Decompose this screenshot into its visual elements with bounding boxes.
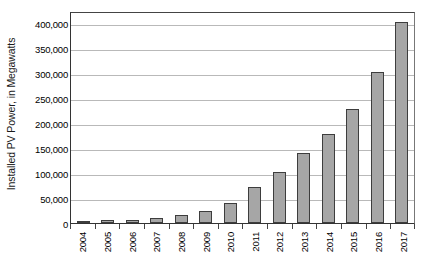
x-axis-tick-mark bbox=[119, 224, 120, 229]
bar bbox=[199, 211, 212, 223]
x-axis-tick-label: 2010 bbox=[218, 230, 243, 275]
bar-chart: Installed PV Power, in Megawatts 050,000… bbox=[0, 0, 425, 275]
y-axis-title-text: Installed PV Power, in Megawatts bbox=[5, 38, 17, 191]
bar-slot bbox=[390, 13, 415, 223]
bar bbox=[322, 134, 335, 223]
x-axis-tick-label: 2014 bbox=[316, 230, 341, 275]
x-axis-tick-mark bbox=[341, 224, 342, 229]
x-axis-tick-labels: 2004200520062007200820092010201120122013… bbox=[70, 230, 415, 275]
x-axis-tick-label-text: 2011 bbox=[249, 232, 260, 252]
x-axis-tick-label-text: 2008 bbox=[175, 232, 186, 252]
x-axis-tick-mark bbox=[390, 224, 391, 229]
x-axis-tick-mark bbox=[292, 224, 293, 229]
bar-slot bbox=[169, 13, 194, 223]
x-axis-tick-mark bbox=[218, 224, 219, 229]
bar bbox=[248, 187, 261, 223]
bar-slot bbox=[292, 13, 317, 223]
x-axis-tick-label-text: 2012 bbox=[274, 232, 285, 252]
bar-slot bbox=[218, 13, 243, 223]
x-axis-tick-label-text: 2005 bbox=[101, 232, 112, 252]
x-axis-tick-label: 2012 bbox=[267, 230, 292, 275]
x-axis-tick-label-text: 2007 bbox=[151, 232, 162, 252]
x-axis-tick-mark bbox=[242, 224, 243, 229]
y-axis-tick-label: 250,000 bbox=[35, 94, 68, 105]
y-axis-tick-label: 100,000 bbox=[35, 169, 68, 180]
x-axis-tick-label: 2011 bbox=[242, 230, 267, 275]
y-axis-tick-label: 350,000 bbox=[35, 44, 68, 55]
x-axis-tick-label: 2015 bbox=[341, 230, 366, 275]
x-axis-tick-label-text: 2016 bbox=[373, 232, 384, 252]
x-axis-tick-label-text: 2004 bbox=[77, 232, 88, 252]
x-axis-tick-end bbox=[414, 224, 415, 229]
x-axis-tick-label-text: 2017 bbox=[397, 232, 408, 252]
bar bbox=[101, 220, 114, 223]
y-axis-tick-label: 200,000 bbox=[35, 119, 68, 130]
x-axis-tick-label-text: 2009 bbox=[200, 232, 211, 252]
bar-slot bbox=[96, 13, 121, 223]
bar-slot bbox=[316, 13, 341, 223]
bar-slot bbox=[267, 13, 292, 223]
plot-area bbox=[70, 12, 415, 224]
bar bbox=[175, 215, 188, 223]
x-axis-tick-label-text: 2006 bbox=[126, 232, 137, 252]
bar bbox=[150, 218, 163, 223]
y-axis-tick-labels: 050,000100,000150,000200,000250,000300,0… bbox=[18, 0, 68, 275]
bar bbox=[395, 22, 408, 223]
x-axis-tick-mark bbox=[267, 224, 268, 229]
y-axis-tick-label: 50,000 bbox=[40, 194, 68, 205]
x-axis-tick-label: 2006 bbox=[119, 230, 144, 275]
x-axis-tick-label: 2017 bbox=[390, 230, 415, 275]
x-axis-tick-label: 2016 bbox=[366, 230, 391, 275]
bar-slot bbox=[365, 13, 390, 223]
bar-slot bbox=[194, 13, 219, 223]
bar bbox=[77, 221, 90, 223]
bar bbox=[346, 109, 359, 223]
x-axis-tick-mark bbox=[70, 224, 71, 229]
x-axis-tick-label: 2009 bbox=[193, 230, 218, 275]
x-axis-tick-mark bbox=[95, 224, 96, 229]
bar bbox=[297, 153, 310, 223]
y-axis-tick-label: 300,000 bbox=[35, 69, 68, 80]
bar-slot bbox=[120, 13, 145, 223]
y-axis-tick-label: 0 bbox=[63, 219, 68, 230]
x-axis-tick-mark bbox=[316, 224, 317, 229]
x-axis-tick-label-text: 2014 bbox=[323, 232, 334, 252]
x-axis-tick-label: 2004 bbox=[70, 230, 95, 275]
bar bbox=[273, 172, 286, 223]
x-axis-tick-label-text: 2010 bbox=[225, 232, 236, 252]
bar bbox=[371, 72, 384, 223]
bar bbox=[126, 220, 139, 223]
y-axis-tick-label: 150,000 bbox=[35, 144, 68, 155]
x-axis-tick-mark bbox=[144, 224, 145, 229]
x-axis-tick-label-text: 2013 bbox=[299, 232, 310, 252]
x-axis-tick-label: 2013 bbox=[292, 230, 317, 275]
bar-slot bbox=[71, 13, 96, 223]
bar bbox=[224, 203, 237, 223]
bars-container bbox=[71, 13, 414, 223]
y-axis-tick-label: 400,000 bbox=[35, 19, 68, 30]
bar-slot bbox=[145, 13, 170, 223]
x-axis-tick-label: 2008 bbox=[169, 230, 194, 275]
x-axis-tick-label: 2005 bbox=[95, 230, 120, 275]
x-axis-tick-mark bbox=[169, 224, 170, 229]
bar-slot bbox=[243, 13, 268, 223]
bar-slot bbox=[341, 13, 366, 223]
x-axis-tick-label: 2007 bbox=[144, 230, 169, 275]
x-axis-tick-mark bbox=[366, 224, 367, 229]
x-axis-tick-mark bbox=[193, 224, 194, 229]
x-axis-tick-label-text: 2015 bbox=[348, 232, 359, 252]
